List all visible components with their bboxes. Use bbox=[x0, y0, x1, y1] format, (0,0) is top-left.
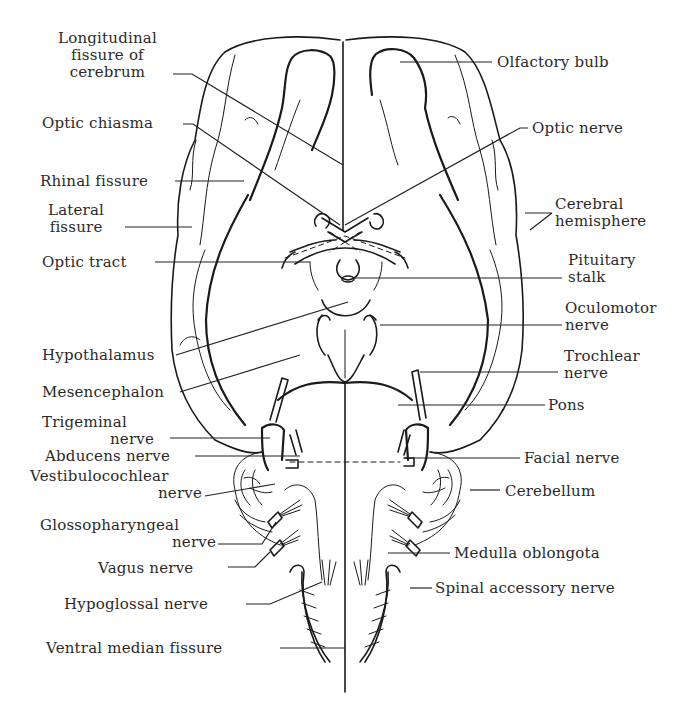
left-hemisphere-outline bbox=[171, 37, 340, 453]
label-vagus-nerve: Vagus nerve bbox=[98, 560, 193, 577]
right-olfactory-bulb bbox=[370, 49, 458, 200]
label-glossopharyngeal-nerve: Glossopharyngeal nerve bbox=[40, 517, 216, 551]
optic-chiasma-shape bbox=[282, 214, 408, 268]
label-hypoglossal-nerve: Hypoglossal nerve bbox=[64, 596, 208, 613]
label-hypothalamus: Hypothalamus bbox=[42, 347, 155, 364]
label-pituitary-stalk: Pituitary stalk bbox=[568, 252, 636, 286]
label-cerebral-hemisphere: Cerebral hemisphere bbox=[555, 196, 646, 230]
label-olfactory-bulb: Olfactory bulb bbox=[497, 54, 609, 71]
label-optic-chiasma: Optic chiasma bbox=[42, 115, 153, 132]
label-trochlear-nerve: Trochlear nerve bbox=[564, 348, 640, 382]
label-trigeminal-nerve: Trigeminal nerve bbox=[42, 414, 154, 448]
label-rhinal-fissure: Rhinal fissure bbox=[40, 173, 148, 190]
label-spinal-accessory-nerve: Spinal accessory nerve bbox=[435, 580, 615, 597]
label-optic-nerve: Optic nerve bbox=[532, 120, 623, 137]
right-hemisphere-outline bbox=[346, 37, 523, 453]
left-olfactory-tract bbox=[250, 50, 334, 200]
label-facial-nerve: Facial nerve bbox=[524, 450, 620, 467]
label-optic-tract: Optic tract bbox=[42, 254, 127, 271]
label-mesencephalon: Mesencephalon bbox=[42, 384, 164, 401]
label-medulla-oblongata: Medulla oblongota bbox=[454, 545, 600, 562]
pituitary-shape bbox=[337, 260, 360, 280]
brain-ventral-view-diagram: Longitudinal fissure of cerebrum Optic c… bbox=[0, 0, 687, 705]
label-abducens-nerve: Abducens nerve bbox=[45, 448, 170, 465]
label-ventral-median-fissure: Ventral median fissure bbox=[46, 640, 222, 657]
left-cerebellum bbox=[234, 452, 280, 545]
label-oculomotor-nerve: Oculomotor nerve bbox=[565, 300, 657, 334]
label-pons: Pons bbox=[548, 397, 585, 414]
label-cerebellum: Cerebellum bbox=[505, 483, 595, 500]
right-rhinal-fissure bbox=[440, 195, 488, 425]
right-cerebellum bbox=[415, 452, 461, 545]
label-vestibulocochlear-nerve: Vestibulocochlear nerve bbox=[30, 468, 202, 502]
label-longitudinal-fissure: Longitudinal fissure of cerebrum bbox=[58, 30, 157, 81]
left-rhinal-fissure bbox=[206, 195, 248, 425]
label-lateral-fissure: Lateral fissure bbox=[48, 202, 104, 236]
